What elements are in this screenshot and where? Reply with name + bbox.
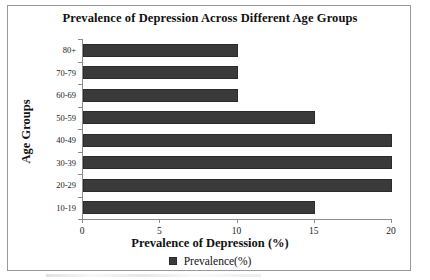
bar-fill [83,44,238,57]
bar-10-19 [83,201,315,214]
y-tick-mark [78,84,82,85]
y-tick-label-10-19: 10-19 [6,203,82,213]
bar-70-79 [83,66,238,79]
x-tick-mark [159,219,160,223]
bar-fill [83,201,315,214]
bar-20-29 [83,179,392,192]
bar-fill [83,179,392,192]
y-tick-mark [78,197,82,198]
x-tick-label-20: 20 [371,226,411,236]
x-tick-mark [391,219,392,223]
y-tick-mark [78,107,82,108]
y-tick-mark [78,129,82,130]
x-tick-label-5: 5 [139,226,179,236]
y-tick-mark [78,62,82,63]
legend-label-prevalence: Prevalence(%) [184,255,252,267]
y-tick-label-50-59: 50-59 [6,113,82,123]
bar-50-59 [83,111,315,124]
figure-frame: Prevalence of Depression Across Differen… [7,5,411,271]
y-tick-mark [78,39,82,40]
y-tick-mark [78,152,82,153]
x-tick-label-15: 15 [294,226,334,236]
y-tick-label-70-79: 70-79 [6,68,82,78]
bar-60-69 [83,89,238,102]
x-tick-mark [82,219,83,223]
x-tick-label-10: 10 [217,226,257,236]
scan-artifact [46,274,261,277]
bar-30-39 [83,156,392,169]
bar-fill [83,66,238,79]
x-tick-label-0: 0 [62,226,102,236]
y-tick-mark [78,174,82,175]
plot-area: 80+70-7960-6950-5940-4930-3920-2910-1905… [82,39,391,219]
bar-40-49 [83,134,392,147]
y-tick-label-20-29: 20-29 [6,180,82,190]
y-tick-label-30-39: 30-39 [6,158,82,168]
y-tick-label-80+: 80+ [6,45,82,55]
y-tick-label-40-49: 40-49 [6,135,82,145]
bar-fill [83,134,392,147]
bar-fill [83,89,238,102]
bar-fill [83,111,315,124]
x-tick-mark [314,219,315,223]
legend-swatch-prevalence [169,257,177,265]
bar-fill [83,156,392,169]
chart-title: Prevalence of Depression Across Differen… [8,11,412,26]
x-axis-title: Prevalence of Depression (%) [8,236,412,251]
x-tick-mark [237,219,238,223]
y-tick-label-60-69: 60-69 [6,90,82,100]
bar-80plus [83,44,238,57]
chart-legend: Prevalence(%) [8,255,412,267]
